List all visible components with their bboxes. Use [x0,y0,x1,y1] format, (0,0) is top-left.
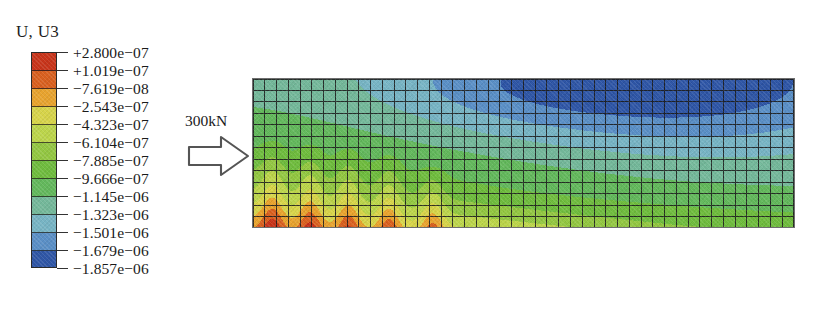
colorbar-band [32,71,56,89]
colorbar-band [32,143,56,161]
colorbar-band [32,215,56,233]
colorbar-label: +2.800e−07 [73,45,149,61]
colorbar-tick [57,70,68,71]
colorbar-band [32,161,56,179]
load-arrow-icon [187,134,251,178]
colorbar-label: −1.679e−06 [73,243,149,259]
colorbar-tick [57,124,68,125]
colorbar-label: −7.885e−07 [73,153,149,169]
load-annotation: 300kN [185,112,255,184]
colorbar-label: −9.666e−07 [73,171,149,187]
mesh-grid [253,79,794,228]
colorbar-tick [57,232,68,233]
colorbar-tick [57,142,68,143]
colorbar-band [32,107,56,125]
colorbar-band [32,179,56,197]
colorbar-tick [57,214,68,215]
colorbar-band [32,89,56,107]
colorbar-tick [57,196,68,197]
colorbar-label: +1.019e−07 [73,63,149,79]
colorbar-label: −1.323e−06 [73,207,149,223]
contour-plot [252,78,795,228]
colorbar-label: −6.104e−07 [73,135,149,151]
colorbar-band [32,53,56,71]
colorbar-label: −2.543e−07 [73,99,149,115]
colorbar-band [32,251,56,268]
colorbar-label: −1.501e−06 [73,225,149,241]
colorbar-label: −4.323e−07 [73,117,149,133]
colorbar-label: −7.619e−08 [73,81,149,97]
fea-contour-figure: U, U3 +2.800e−07+1.019e−07−7.619e−08−2.5… [0,0,814,314]
caption-sliver [78,303,738,314]
colorbar-tick [57,178,68,179]
colorbar-tick [57,106,68,107]
colorbar-band [32,197,56,215]
colorbar-band [32,125,56,143]
colorbar-tick [57,268,68,269]
colorbar [31,52,57,268]
colorbar-band [32,233,56,251]
legend-title: U, U3 [16,22,59,42]
colorbar-labels: +2.800e−07+1.019e−07−7.619e−08−2.543e−07… [73,52,193,268]
colorbar-label: −1.145e−06 [73,189,149,205]
colorbar-ticks [57,52,69,268]
colorbar-tick [57,88,68,89]
colorbar-tick [57,52,68,53]
colorbar-tick [57,250,68,251]
colorbar-tick [57,160,68,161]
colorbar-label: −1.857e−06 [73,261,149,277]
load-magnitude-label: 300kN [185,112,227,130]
